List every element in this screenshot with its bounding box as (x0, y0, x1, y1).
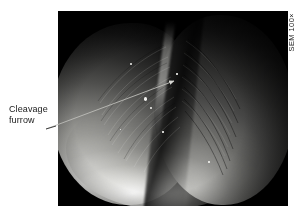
surface-speck (208, 161, 210, 163)
surface-speck (162, 131, 164, 133)
figure-root: Cleavage furrow SEM 100× (0, 0, 302, 221)
cleavage-furrow-label-line1: Cleavage (9, 104, 57, 115)
cell-surface-creases-dark (58, 11, 288, 206)
dividing-cell-image (58, 11, 288, 206)
micrograph-panel (58, 11, 288, 206)
cleavage-furrow-label: Cleavage furrow (9, 104, 57, 125)
surface-speck (150, 107, 152, 109)
leader-line-tail (46, 126, 56, 129)
surface-speck (176, 73, 178, 75)
magnification-caption: SEM 100× (288, 13, 296, 51)
surface-speck (144, 97, 147, 101)
cleavage-furrow-label-line2: furrow (9, 115, 57, 126)
